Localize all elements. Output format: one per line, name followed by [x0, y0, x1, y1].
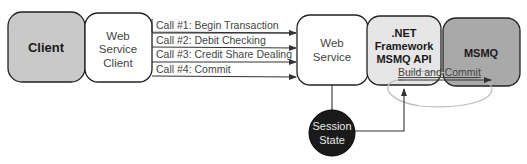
msmq-label: MSMQ — [464, 47, 499, 59]
ws-client-line2: Service — [99, 43, 137, 55]
call-1-label: Call #1: Begin Transaction — [156, 19, 279, 31]
call-3-label: Call #3: Credit Share Dealing — [156, 48, 292, 60]
session-state-line1: Session — [312, 120, 351, 132]
architecture-diagram: Client Web Service Client Call #1: Begin… — [0, 0, 527, 164]
web-service-line1: Web — [320, 37, 343, 49]
net-api-line3: MSMQ API — [376, 53, 431, 65]
ws-client-line1: Web — [106, 30, 129, 42]
build-commit-label: Build and Commit — [398, 66, 481, 78]
call-2-label: Call #2: Debit Checking — [156, 34, 266, 46]
client-node: Client — [8, 12, 85, 82]
ws-client-line3: Client — [103, 57, 133, 69]
web-service-client-node: Web Service Client — [85, 13, 152, 82]
net-api-line2: Framework — [375, 40, 435, 52]
web-service-node: Web Service — [297, 15, 368, 85]
web-service-line2: Service — [313, 51, 351, 63]
net-api-line1: .NET — [391, 27, 416, 39]
client-label: Client — [28, 40, 65, 55]
session-state-line2: State — [319, 134, 345, 146]
session-state-node: Session State — [309, 110, 355, 156]
call-4-label: Call #4: Commit — [156, 63, 231, 75]
